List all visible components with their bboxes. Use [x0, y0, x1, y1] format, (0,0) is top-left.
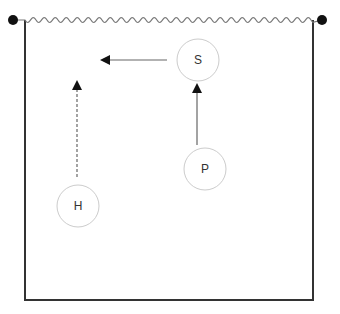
wavy-surface-line [13, 18, 322, 23]
diagram-canvas: S P H [0, 0, 340, 314]
container-walls [25, 20, 313, 300]
container [8, 15, 327, 300]
node-h: H [57, 185, 99, 227]
node-s-label: S [194, 53, 202, 67]
node-p-label: P [201, 162, 209, 176]
node-h-label: H [74, 199, 83, 213]
arrows [77, 60, 197, 177]
left-anchor-dot [8, 15, 18, 25]
right-anchor-dot [317, 15, 327, 25]
node-p: P [184, 148, 226, 190]
node-s: S [177, 39, 219, 81]
